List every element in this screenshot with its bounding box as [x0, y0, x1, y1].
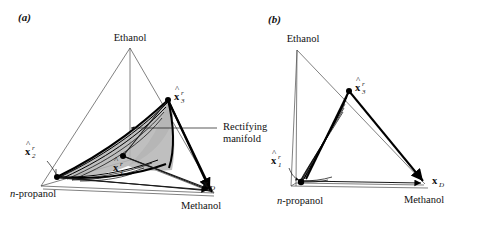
vertex-label-methanol-b: Methanol: [404, 194, 444, 205]
svg-text:n-propanol: n-propanol: [10, 188, 56, 199]
npropanol-rest-a: -propanol: [15, 188, 56, 199]
x1r-sub-b: 1: [278, 161, 282, 169]
x2r-sup-a: r: [32, 144, 35, 152]
panel-b-label: (b): [268, 13, 281, 26]
point-x2r-a: [54, 174, 60, 180]
annotation-line2: manifold: [223, 133, 262, 144]
x3r-base-a: x: [174, 91, 180, 102]
x2r-base-a: x: [25, 146, 31, 157]
x1r-sup-b: r: [278, 153, 281, 161]
canvas-background: [0, 0, 481, 226]
point-x3r-a: [165, 97, 171, 103]
x3r-base-b: x: [355, 82, 361, 93]
vertex-label-npropanol-a: n-propanol: [10, 188, 56, 199]
vertex-label-methanol-a: Methanol: [181, 200, 221, 211]
x1r-sup-a: r: [120, 160, 123, 168]
x3r-sup-b: r: [362, 80, 365, 88]
figure-svg: (a): [0, 0, 481, 226]
x3r-sub-b: 3: [361, 88, 366, 96]
vertex-label-ethanol-b: Ethanol: [287, 33, 320, 44]
x2r-sub-a: 2: [32, 152, 36, 160]
xD-sub-b: D: [438, 181, 444, 189]
figure-container: (a): [0, 0, 481, 226]
x1r-sub-a: 1: [120, 168, 124, 176]
vertex-label-ethanol-a: Ethanol: [114, 32, 147, 43]
npropanol-rest-b: -propanol: [282, 195, 323, 206]
point-x1r-a: [120, 153, 126, 159]
x1r-base-a: x: [113, 162, 119, 173]
x3r-sub-a: 3: [180, 97, 185, 105]
vertex-label-npropanol-b: n-propanol: [277, 195, 323, 206]
x3r-sup-a: r: [181, 89, 184, 97]
annotation-line1: Rectifying: [223, 121, 268, 132]
svg-text:n-propanol: n-propanol: [277, 195, 323, 206]
xD-base-a: x: [203, 178, 209, 189]
panel-a-label: (a): [18, 11, 31, 24]
xD-base-b: x: [432, 175, 438, 186]
x1r-base-b: x: [271, 155, 277, 166]
point-x3r-b: [346, 88, 352, 94]
xD-sub-a: D: [209, 184, 215, 192]
